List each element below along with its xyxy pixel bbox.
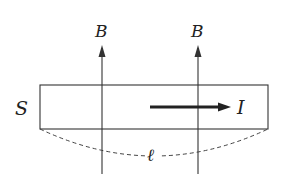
field-label-left: B [94,21,108,41]
diagram-canvas: B B S I ℓ [0,0,291,182]
diagram-svg: B B S I ℓ [0,0,291,182]
slab-label: S [15,97,28,119]
length-label: ℓ [147,145,154,165]
current-label: I [236,96,245,118]
field-label-right: B [190,21,204,41]
field-arrowhead-right-icon [195,45,202,57]
current-arrowhead-icon [218,103,231,112]
field-arrowhead-left-icon [99,45,106,57]
